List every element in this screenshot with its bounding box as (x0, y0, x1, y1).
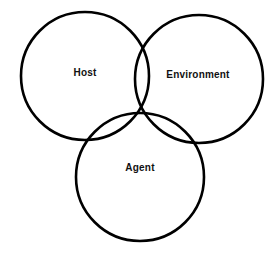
label-agent: Agent (125, 163, 154, 173)
diagram-background (0, 0, 278, 253)
label-host: Host (73, 68, 96, 78)
venn-circles-svg (0, 0, 278, 253)
label-environment: Environment (166, 70, 229, 80)
venn-diagram: Host Environment Agent (0, 0, 278, 253)
